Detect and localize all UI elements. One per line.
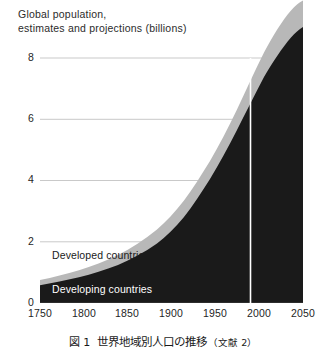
chart-plot-area — [0, 0, 326, 330]
figure-caption: 図 1世界地域別人口の推移（文献 2） — [0, 333, 326, 349]
x-tick-2000: 2000 — [239, 307, 279, 319]
figure-container: Global population, estimates and project… — [0, 0, 326, 362]
y-tick-2: 2 — [12, 235, 34, 247]
caption-number: 図 1 — [69, 336, 91, 349]
x-tick-2050: 2050 — [283, 307, 323, 319]
x-tick-1950: 1950 — [195, 307, 235, 319]
series-label-developing: Developing countries — [52, 283, 152, 295]
caption-text: 世界地域別人口の推移 — [97, 335, 207, 349]
y-tick-4: 4 — [12, 173, 34, 185]
x-tick-1800: 1800 — [64, 307, 104, 319]
y-tick-6: 6 — [12, 112, 34, 124]
caption-reference: （文献 2） — [208, 337, 257, 348]
y-tick-8: 8 — [12, 51, 34, 63]
x-tick-1750: 1750 — [20, 307, 60, 319]
x-tick-1900: 1900 — [151, 307, 191, 319]
x-tick-1850: 1850 — [107, 307, 147, 319]
series-label-developed: Developed countries — [52, 249, 150, 261]
